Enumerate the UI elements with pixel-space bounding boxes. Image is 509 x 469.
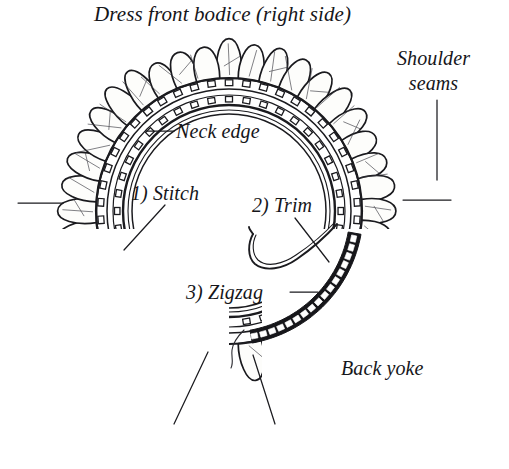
illustration-canvas: Dress front bodice (right side) Shoulder… [0, 0, 509, 469]
bottom-right-leader [253, 355, 275, 424]
stitch-leader [124, 205, 165, 250]
step-2-trim-label: 2) Trim [252, 194, 312, 218]
neck-edge-label: Neck edge [176, 120, 260, 144]
step-3-zigzag-label: 3) Zigzag [186, 281, 263, 305]
shoulder-seams-label: Shoulder seams [397, 46, 470, 96]
step-1-stitch-label: 1) Stitch [131, 182, 199, 206]
page-title: Dress front bodice (right side) [94, 2, 351, 27]
bottom-left-leader [174, 352, 208, 424]
back-yoke-label: Back yoke [341, 357, 424, 381]
shoulder-seams-line1: Shoulder [397, 47, 470, 69]
shoulder-seams-line2: seams [397, 71, 470, 96]
trim-leader [295, 218, 329, 262]
